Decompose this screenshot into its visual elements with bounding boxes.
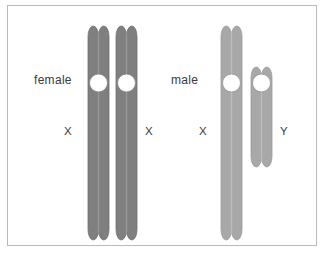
chromosome-female-x-2: [115, 25, 138, 241]
label-male-y: Y: [280, 126, 288, 138]
chromatid: [88, 26, 99, 240]
chromatid: [221, 26, 232, 240]
label-male: male: [171, 74, 198, 86]
centromere: [253, 74, 271, 92]
chromatid: [116, 26, 127, 240]
label-male-x: X: [199, 126, 207, 138]
chromosome-male-y: [250, 66, 273, 168]
label-female-x-1: X: [64, 126, 72, 138]
centromere: [118, 74, 136, 92]
chromosome-female-x-1: [87, 25, 110, 241]
diagram-frame: female X X male X Y: [7, 5, 317, 246]
label-female: female: [34, 74, 72, 86]
label-female-x-2: X: [145, 126, 153, 138]
chromatid: [99, 26, 110, 240]
centromere: [90, 74, 108, 92]
diagram-canvas: female X X male X Y: [0, 0, 327, 258]
chromatid: [232, 26, 243, 240]
chromatid: [127, 26, 138, 240]
centromere: [223, 74, 241, 92]
chromosome-male-x: [220, 25, 243, 241]
